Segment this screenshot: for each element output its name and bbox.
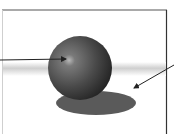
sphere-shadow-diagram bbox=[0, 0, 174, 134]
sphere bbox=[48, 36, 112, 100]
